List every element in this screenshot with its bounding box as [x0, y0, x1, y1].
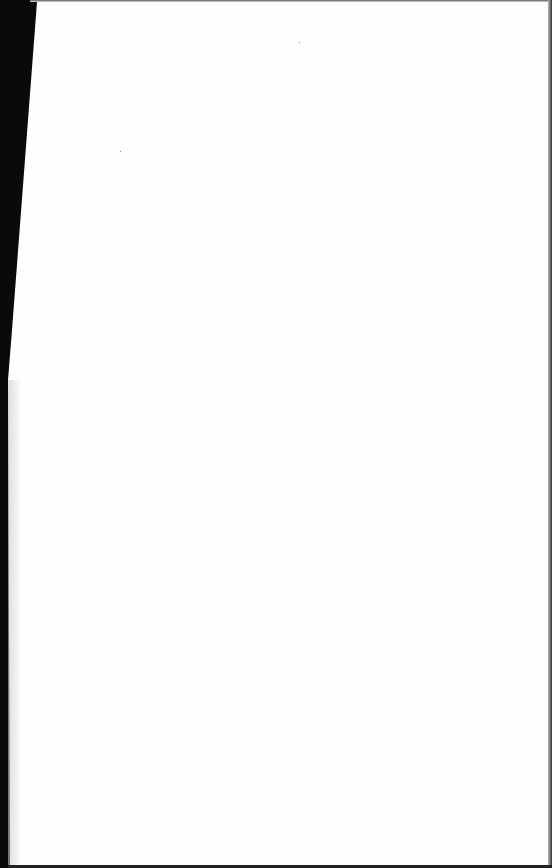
dust-speck — [299, 42, 300, 43]
dust-speck — [120, 151, 121, 152]
right-scan-edge — [548, 0, 552, 868]
scan-frame — [0, 0, 552, 868]
blank-paper-sheet — [0, 0, 552, 868]
top-scan-edge — [30, 0, 552, 2]
